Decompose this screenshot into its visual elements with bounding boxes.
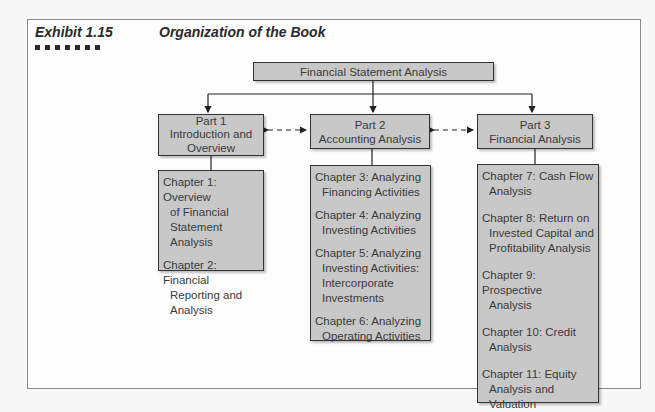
- decorative-squares: [35, 45, 100, 50]
- part-3-box: Part 3 Financial Analysis: [477, 114, 593, 149]
- chapter-title: Chapter 5: Analyzing: [315, 246, 426, 261]
- part-2-chapters-box: Chapter 3: Analyzing Financing Activitie…: [310, 165, 431, 341]
- chapter-item: Chapter 10: Credit Analysis: [482, 325, 594, 355]
- chapter-title-cont: Investing Activities:: [315, 261, 426, 276]
- chapter-title-cont: of Financial: [163, 205, 259, 220]
- square-icon: [55, 45, 60, 50]
- part-name: Overview: [159, 142, 263, 156]
- chapter-item: Chapter 11: Equity Analysis and Valuatio…: [482, 367, 594, 412]
- root-label: Financial Statement Analysis: [254, 64, 493, 80]
- chapter-item: Chapter 7: Cash Flow Analysis: [482, 169, 594, 199]
- chapter-title-cont: Financing Activities: [315, 185, 426, 200]
- chapter-title-cont: Analysis: [482, 184, 594, 199]
- part-number: Part 2: [311, 118, 429, 132]
- chapter-title: Chapter 6: Analyzing: [315, 314, 426, 329]
- chapter-title-cont: Profitability Analysis: [482, 241, 594, 256]
- chapter-title-cont: Operating Activities: [315, 329, 426, 344]
- chapter-title: Chapter 9: Prospective: [482, 268, 594, 298]
- chapter-title-cont: Analysis: [482, 298, 594, 313]
- exhibit-title: Organization of the Book: [159, 24, 325, 40]
- chapter-title: Chapter 7: Cash Flow: [482, 169, 594, 184]
- chapter-item: Chapter 1: Overview of Financial Stateme…: [163, 175, 259, 250]
- square-icon: [35, 45, 40, 50]
- chapter-item: Chapter 2: Financial Reporting and Analy…: [163, 258, 259, 318]
- chapter-title: Chapter 4: Analyzing: [315, 208, 426, 223]
- part-name: Financial Analysis: [478, 132, 592, 146]
- part-1-box: Part 1 Introduction and Overview: [158, 114, 264, 156]
- chapter-item: Chapter 8: Return on Invested Capital an…: [482, 211, 594, 256]
- part-3-chapters-box: Chapter 7: Cash Flow Analysis Chapter 8:…: [477, 164, 599, 403]
- chapter-title-cont: Investments: [315, 291, 426, 306]
- part-1-chapters-box: Chapter 1: Overview of Financial Stateme…: [158, 170, 264, 271]
- root-box-financial-statement-analysis: Financial Statement Analysis: [253, 62, 494, 81]
- chapter-title: Chapter 1: Overview: [163, 175, 259, 205]
- chapter-item: Chapter 5: Analyzing Investing Activitie…: [315, 246, 426, 306]
- square-icon: [85, 45, 90, 50]
- chapter-item: Chapter 4: Analyzing Investing Activitie…: [315, 208, 426, 238]
- square-icon: [95, 45, 100, 50]
- chapter-title-cont: Analysis: [163, 303, 259, 318]
- part-name: Introduction and: [159, 128, 263, 142]
- square-icon: [75, 45, 80, 50]
- chapter-title-cont: Analysis: [482, 340, 594, 355]
- square-icon: [65, 45, 70, 50]
- chapter-title-cont: Intercorporate: [315, 276, 426, 291]
- square-icon: [45, 45, 50, 50]
- part-2-box: Part 2 Accounting Analysis: [310, 114, 430, 149]
- chapter-title-cont: Investing Activities: [315, 223, 426, 238]
- part-name: Accounting Analysis: [311, 132, 429, 146]
- chapter-title-cont: Statement Analysis: [163, 220, 259, 250]
- part-number: Part 1: [159, 115, 263, 129]
- chapter-title: Chapter 3: Analyzing: [315, 170, 426, 185]
- chapter-title: Chapter 10: Credit: [482, 325, 594, 340]
- chapter-item: Chapter 6: Analyzing Operating Activitie…: [315, 314, 426, 344]
- chapter-title-cont: Reporting and: [163, 288, 259, 303]
- part-number: Part 3: [478, 118, 592, 132]
- chapter-title-cont: Invested Capital and: [482, 226, 594, 241]
- chapter-title: Chapter 11: Equity: [482, 367, 594, 382]
- chapter-title-cont: Analysis and Valuation: [482, 382, 594, 412]
- chapter-item: Chapter 3: Analyzing Financing Activitie…: [315, 170, 426, 200]
- chapter-item: Chapter 9: Prospective Analysis: [482, 268, 594, 313]
- exhibit-label: Exhibit 1.15: [35, 24, 113, 40]
- chapter-title: Chapter 2: Financial: [163, 258, 259, 288]
- chapter-title: Chapter 8: Return on: [482, 211, 594, 226]
